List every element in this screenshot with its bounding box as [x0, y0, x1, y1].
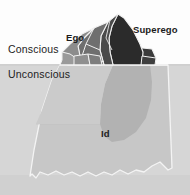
- iceberg-shelf-block-1: [74, 54, 90, 65]
- water-deep-band: [0, 175, 190, 195]
- iceberg-illustration: [0, 0, 190, 195]
- iceberg-shelf-block-2: [88, 54, 102, 65]
- freud-iceberg-diagram: Conscious Unconscious Ego Superego Id: [0, 0, 190, 195]
- iceberg-shelf-block-3: [141, 56, 156, 65]
